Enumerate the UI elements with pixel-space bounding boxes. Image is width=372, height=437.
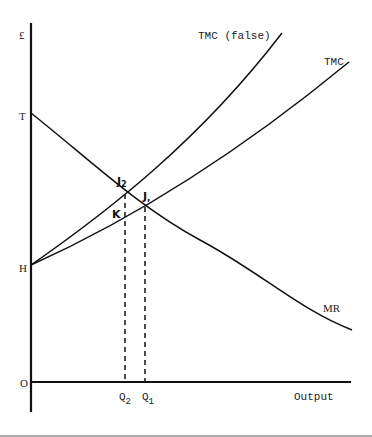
y-axis-label-pound: £ (19, 29, 25, 41)
mr-curve (31, 113, 352, 330)
origin-label: O (20, 377, 28, 389)
x-axis-label-output: Output (294, 391, 334, 403)
y-intercept-h-label: H (19, 262, 27, 274)
j2-label: J2 (116, 175, 127, 189)
q2-label: Q2 (119, 391, 131, 407)
k-label: K (112, 208, 121, 221)
tmc-false-curve (31, 33, 282, 265)
tmc-false-label: TMC (false) (198, 30, 271, 42)
mr-label: MR (323, 302, 341, 314)
q1-label: Q1 (142, 391, 154, 407)
j1-label: J, (142, 190, 151, 203)
tmc-label: TMC (324, 56, 344, 68)
diagram-canvas: £ T H O Q2 Q1 Output TMC (false) TMC MR … (0, 0, 372, 437)
y-intercept-t-label: T (19, 110, 26, 122)
